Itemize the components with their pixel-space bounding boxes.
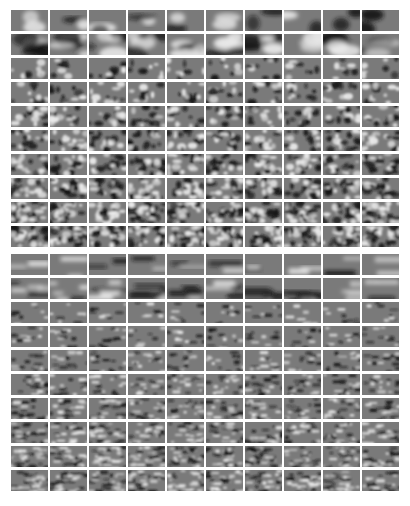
basis-patch-tile xyxy=(245,374,282,395)
basis-patch-tile xyxy=(50,178,87,199)
basis-patch-tile xyxy=(362,106,399,127)
basis-patch-tile xyxy=(206,154,243,175)
basis-patch-tile xyxy=(245,422,282,443)
basis-patch-tile xyxy=(89,82,126,103)
basis-patch-tile xyxy=(167,178,204,199)
basis-patch-tile xyxy=(284,106,321,127)
basis-patch-tile xyxy=(128,422,165,443)
basis-patch-tile xyxy=(323,34,360,55)
basis-patch-tile xyxy=(245,302,282,323)
basis-patch-tile xyxy=(284,422,321,443)
basis-patch-tile xyxy=(50,422,87,443)
basis-patch-tile xyxy=(11,58,48,79)
basis-patch-tile xyxy=(284,278,321,299)
basis-patch-tile xyxy=(323,154,360,175)
basis-patch-tile xyxy=(245,470,282,491)
basis-patch-tile xyxy=(89,470,126,491)
basis-patch-tile xyxy=(323,374,360,395)
basis-patch-tile xyxy=(50,350,87,371)
basis-patch-tile xyxy=(362,422,399,443)
basis-patch-tile xyxy=(362,374,399,395)
basis-patch-tile xyxy=(50,82,87,103)
basis-patch-tile xyxy=(167,350,204,371)
top-basis-grid xyxy=(11,10,399,247)
basis-patch-tile xyxy=(11,130,48,151)
basis-patch-tile xyxy=(362,226,399,247)
basis-patch-tile xyxy=(167,58,204,79)
basis-patch-tile xyxy=(284,226,321,247)
basis-patch-tile xyxy=(11,226,48,247)
basis-patch-tile xyxy=(11,278,48,299)
basis-patch-tile xyxy=(362,302,399,323)
basis-patch-tile xyxy=(128,302,165,323)
basis-patch-tile xyxy=(50,130,87,151)
basis-patch-tile xyxy=(362,82,399,103)
basis-patch-tile xyxy=(323,422,360,443)
basis-patch-tile xyxy=(284,178,321,199)
basis-patch-tile xyxy=(167,302,204,323)
basis-patch-tile xyxy=(128,226,165,247)
basis-patch-tile xyxy=(284,82,321,103)
basis-patch-tile xyxy=(206,106,243,127)
basis-patch-tile xyxy=(89,34,126,55)
basis-patch-tile xyxy=(89,374,126,395)
basis-patch-tile xyxy=(284,130,321,151)
basis-patch-tile xyxy=(323,326,360,347)
basis-patch-tile xyxy=(89,398,126,419)
basis-patch-tile xyxy=(362,58,399,79)
basis-patch-tile xyxy=(362,130,399,151)
basis-patch-tile xyxy=(284,302,321,323)
basis-patch-tile xyxy=(50,470,87,491)
basis-patch-tile xyxy=(284,326,321,347)
basis-patch-tile xyxy=(11,470,48,491)
basis-patch-tile xyxy=(323,106,360,127)
basis-patch-tile xyxy=(245,178,282,199)
basis-patch-tile xyxy=(50,398,87,419)
basis-patch-tile xyxy=(11,202,48,223)
basis-patch-tile xyxy=(245,34,282,55)
basis-patch-tile xyxy=(245,254,282,275)
basis-patch-tile xyxy=(11,254,48,275)
basis-patch-tile xyxy=(206,178,243,199)
basis-patch-tile xyxy=(89,278,126,299)
basis-patch-tile xyxy=(11,446,48,467)
basis-patch-tile xyxy=(206,326,243,347)
basis-patch-tile xyxy=(245,154,282,175)
basis-patch-tile xyxy=(362,178,399,199)
basis-patch-tile xyxy=(284,350,321,371)
bottom-basis-grid xyxy=(11,254,399,491)
basis-patch-tile xyxy=(11,422,48,443)
basis-patch-tile xyxy=(50,106,87,127)
basis-patch-tile xyxy=(50,34,87,55)
basis-patch-tile xyxy=(128,446,165,467)
basis-patch-tile xyxy=(206,130,243,151)
basis-patch-tile xyxy=(245,350,282,371)
basis-patch-tile xyxy=(89,254,126,275)
basis-patch-tile xyxy=(167,422,204,443)
basis-patch-tile xyxy=(11,326,48,347)
basis-patch-tile xyxy=(206,34,243,55)
basis-patch-tile xyxy=(11,154,48,175)
basis-patch-tile xyxy=(128,34,165,55)
basis-patch-tile xyxy=(245,278,282,299)
basis-patch-tile xyxy=(284,446,321,467)
basis-patch-tile xyxy=(206,302,243,323)
basis-patch-tile xyxy=(323,470,360,491)
basis-patch-tile xyxy=(284,34,321,55)
basis-patch-tile xyxy=(167,154,204,175)
basis-patch-tile xyxy=(362,326,399,347)
basis-patch-tile xyxy=(89,350,126,371)
basis-patch-tile xyxy=(89,10,126,31)
basis-patch-tile xyxy=(11,398,48,419)
basis-patch-tile xyxy=(89,178,126,199)
basis-patch-tile xyxy=(323,130,360,151)
basis-patch-tile xyxy=(50,254,87,275)
basis-patch-tile xyxy=(245,106,282,127)
basis-patch-tile xyxy=(128,106,165,127)
basis-patch-tile xyxy=(323,58,360,79)
basis-patch-tile xyxy=(11,302,48,323)
basis-patch-tile xyxy=(11,34,48,55)
basis-patch-tile xyxy=(50,154,87,175)
basis-patch-tile xyxy=(362,34,399,55)
basis-patch-tile xyxy=(206,374,243,395)
